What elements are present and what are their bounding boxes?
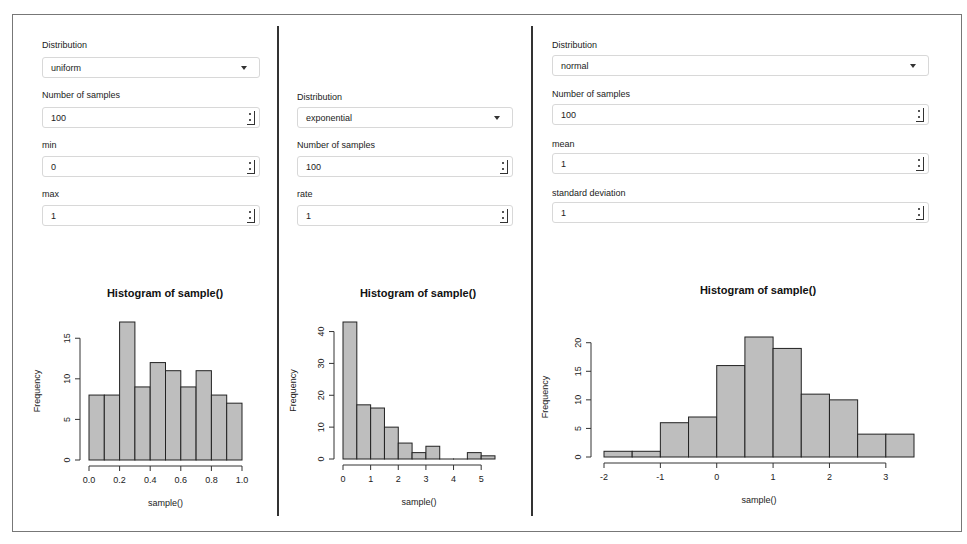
chart-title: Histogram of sample() [107,287,223,299]
histogram-bar [211,395,226,460]
histogram-bar [426,446,440,459]
histogram-bar [357,405,371,459]
x-tick-label: -2 [600,472,608,482]
histogram-bar [343,322,357,459]
chart-title: Histogram of sample() [360,287,476,299]
y-tick-label: 20 [573,338,583,348]
histogram-bar [773,348,801,457]
histogram-bar [886,434,914,457]
histogram-bar [371,408,385,459]
histogram-bar [181,387,196,460]
histogram-bar [858,434,886,457]
y-tick-label: 5 [62,417,72,422]
x-tick-label: 0.4 [144,475,157,485]
x-tick-label: 0.6 [175,475,188,485]
histogram-bar [89,395,104,460]
histogram-bar [166,371,181,460]
x-tick-label: 0 [714,472,719,482]
y-tick-label: 20 [316,390,326,400]
x-tick-label: 2 [396,474,401,484]
histogram-bar [120,322,135,460]
y-tick-label: 10 [573,395,583,405]
x-tick-label: 4 [451,474,456,484]
y-tick-label: 10 [62,374,72,384]
y-tick-label: 40 [316,327,326,337]
histogram-bar [467,453,481,459]
histogram-bar [829,400,857,457]
chart-title: Histogram of sample() [700,284,816,296]
y-tick-label: 0 [316,456,326,461]
histogram-bar [660,423,688,457]
histogram-bar [227,403,242,460]
y-axis-label: Frequency [540,375,550,418]
histogram-bar [717,366,745,457]
x-tick-label: 1 [771,472,776,482]
histogram-bar [604,451,632,457]
histogram-bar [104,395,119,460]
y-axis-label: Frequency [288,369,298,412]
x-tick-label: 5 [479,474,484,484]
y-tick-label: 10 [316,422,326,432]
histogram-bar [384,427,398,459]
x-axis-label: sample() [401,497,436,507]
x-tick-label: 3 [423,474,428,484]
x-axis-label: sample() [741,495,776,505]
histogram-bar [398,443,412,459]
histogram-bar [150,363,165,460]
x-tick-label: 0.0 [83,475,96,485]
histogram-bar [632,451,660,457]
histogram-bar [196,371,211,460]
histogram-bar [412,453,426,459]
y-tick-label: 15 [62,333,72,343]
x-tick-label: 3 [883,472,888,482]
x-tick-label: 0.8 [205,475,218,485]
x-tick-label: 2 [827,472,832,482]
histogram-bar [135,387,150,460]
x-tick-label: 1.0 [236,475,249,485]
x-tick-label: 1 [368,474,373,484]
y-tick-label: 30 [316,358,326,368]
y-tick-label: 0 [62,457,72,462]
histogram-uniform: Histogram of sample()0.00.20.40.60.81.0s… [0,0,967,544]
x-axis-label: sample() [148,498,183,508]
y-tick-label: 5 [573,426,583,431]
x-tick-label: 0 [340,474,345,484]
y-axis-label: Frequency [32,369,42,412]
y-tick-label: 0 [573,454,583,459]
x-tick-label: -1 [656,472,664,482]
y-tick-label: 15 [573,366,583,376]
histogram-bar [481,456,495,459]
histogram-bar [745,337,773,457]
histogram-bar [689,417,717,457]
x-tick-label: 0.2 [113,475,126,485]
histogram-bar [801,394,829,457]
